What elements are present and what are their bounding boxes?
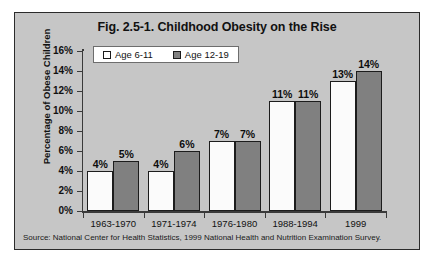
legend-swatch-icon	[103, 51, 111, 59]
y-tick-mark	[77, 171, 82, 172]
legend-label: Age 12-19	[185, 49, 229, 60]
y-tick-label: 0%	[31, 206, 73, 216]
bar-value-label: 6%	[172, 138, 202, 150]
bar[interactable]	[356, 71, 382, 211]
y-tick-mark	[77, 151, 82, 152]
y-tick-label: 14%	[31, 66, 73, 76]
chart-title: Fig. 2.5-1. Childhood Obesity on the Ris…	[15, 20, 419, 34]
bar[interactable]	[295, 101, 321, 211]
source-note: Source: National Center for Health Stati…	[23, 233, 381, 242]
bar[interactable]	[148, 171, 174, 211]
legend-entry[interactable]: Age 12-19	[173, 49, 229, 60]
y-tick-mark	[77, 211, 82, 212]
bar[interactable]	[269, 101, 295, 211]
chart-legend: Age 6-11Age 12-19	[93, 46, 239, 63]
figure-root: Fig. 2.5-1. Childhood Obesity on the Ris…	[0, 0, 438, 266]
bar[interactable]	[209, 141, 235, 211]
legend-entry[interactable]: Age 6-11	[103, 49, 153, 60]
x-tick-label: 1963-1970	[78, 218, 148, 229]
y-tick-mark	[77, 51, 82, 52]
y-tick-label: 12%	[31, 86, 73, 96]
y-tick-label: 16%	[31, 46, 73, 56]
y-tick-label: 6%	[31, 146, 73, 156]
bar[interactable]	[174, 151, 200, 211]
y-tick-label: 2%	[31, 186, 73, 196]
bar-value-label: 14%	[354, 58, 384, 70]
bar-group	[87, 51, 139, 211]
x-tick-label: 1976-1980	[200, 218, 270, 229]
y-tick-label: 10%	[31, 106, 73, 116]
y-tick-label: 8%	[31, 126, 73, 136]
bar[interactable]	[330, 81, 356, 211]
figure-panel: Fig. 2.5-1. Childhood Obesity on the Ris…	[14, 12, 420, 250]
bar[interactable]	[113, 161, 139, 211]
bar-group	[269, 51, 321, 211]
y-tick-mark	[77, 191, 82, 192]
bar-group	[148, 51, 200, 211]
x-tick-label: 1988-1994	[260, 218, 330, 229]
x-tick-mark	[386, 213, 387, 218]
y-tick-mark	[77, 111, 82, 112]
bar[interactable]	[235, 141, 261, 211]
x-tick-label: 1999	[321, 218, 391, 229]
bar-value-label: 11%	[293, 88, 323, 100]
bar-value-label: 4%	[146, 158, 176, 170]
x-tick-label: 1971-1974	[139, 218, 209, 229]
legend-label: Age 6-11	[115, 49, 153, 60]
bar[interactable]	[87, 171, 113, 211]
bar-value-label: 5%	[111, 148, 141, 160]
bar-value-label: 7%	[233, 128, 263, 140]
y-tick-mark	[77, 131, 82, 132]
y-tick-mark	[77, 91, 82, 92]
y-tick-label: 4%	[31, 166, 73, 176]
x-axis-line	[82, 211, 387, 213]
y-tick-mark	[77, 71, 82, 72]
legend-swatch-icon	[173, 51, 181, 59]
